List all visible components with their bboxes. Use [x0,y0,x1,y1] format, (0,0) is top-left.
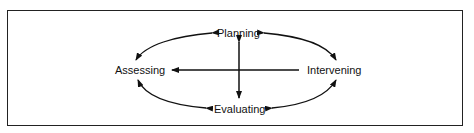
node-evaluating: Evaluating [214,103,265,115]
node-assessing: Assessing [115,64,165,76]
node-intervening: Intervening [307,64,361,76]
arrow-evaluating-intervening [272,80,336,108]
arrow-planning-intervening [264,33,336,60]
node-planning: Planning [217,27,260,39]
arrow-planning-assessing [136,33,212,60]
arrow-evaluating-assessing [138,80,206,108]
